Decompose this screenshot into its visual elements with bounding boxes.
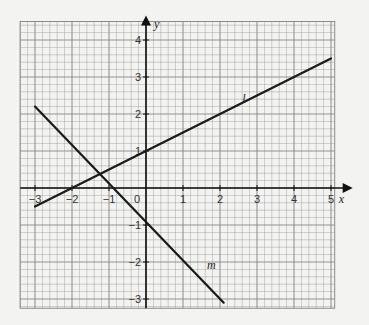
tick-labels: −3−2−1012345−3−2−11234: [29, 34, 334, 305]
x-tick-label: 4: [291, 193, 297, 205]
y-axis-arrow-icon: [141, 16, 151, 26]
y-tick-label: 3: [135, 71, 141, 83]
x-tick-label: −1: [103, 193, 116, 205]
x-tick-label: −2: [66, 193, 79, 205]
y-tick-label: −1: [128, 219, 141, 231]
x-axis-arrow-icon: [343, 183, 353, 193]
x-tick-label: 5: [328, 193, 334, 205]
x-tick-label: 1: [180, 193, 186, 205]
x-tick-label: 0: [134, 193, 140, 205]
y-axis-label: y: [153, 17, 160, 31]
y-tick-label: −3: [128, 293, 141, 305]
line-label-l: l: [242, 92, 246, 106]
y-tick-label: 4: [135, 34, 141, 46]
grid-major: [20, 22, 335, 309]
line-label-m: m: [207, 258, 216, 272]
grid-minor: [20, 22, 335, 309]
grid-border: [20, 22, 335, 309]
y-tick-label: 2: [135, 108, 141, 120]
x-axis-label: x: [338, 192, 345, 206]
y-tick-label: −2: [128, 256, 141, 268]
x-tick-label: 3: [254, 193, 260, 205]
x-tick-label: 2: [217, 193, 223, 205]
coordinate-plane-chart: xy −3−2−1012345−3−2−11234 lm: [0, 0, 369, 325]
